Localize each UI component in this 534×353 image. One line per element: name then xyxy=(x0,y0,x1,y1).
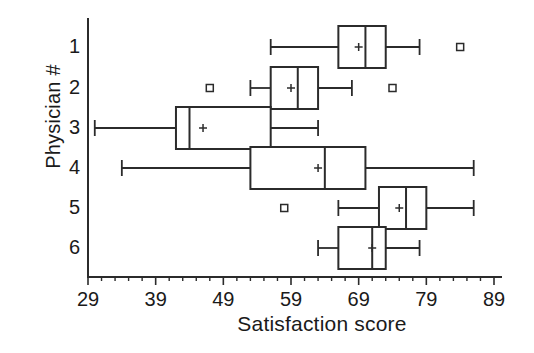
outlier-point xyxy=(281,205,288,212)
outlier-point xyxy=(457,44,464,51)
boxplot-figure: Physician # Satisfaction score 123456 29… xyxy=(0,0,534,353)
box-group-physician-2 xyxy=(206,67,396,109)
box-group-physician-5 xyxy=(281,187,474,229)
box-group-physician-1 xyxy=(271,26,464,68)
plot-area xyxy=(0,0,534,353)
outlier-point xyxy=(389,85,396,92)
box-group-physician-6 xyxy=(318,227,420,269)
outlier-point xyxy=(206,85,213,92)
box-group-physician-3 xyxy=(95,107,318,149)
box-group-physician-4 xyxy=(122,147,474,189)
box-iqr xyxy=(250,147,365,189)
box-iqr xyxy=(338,227,385,269)
